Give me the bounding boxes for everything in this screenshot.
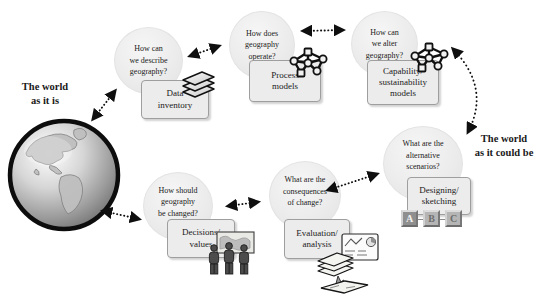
question-text: What are the alternative scenarios? [403, 138, 444, 173]
node-network-icon [286, 45, 331, 85]
map-layers-icon [180, 67, 217, 109]
activity-label: Designing/ sketching [419, 185, 459, 208]
world-as-it-is-label: The world as it is [8, 80, 82, 107]
question-text: How can we alter geography? [366, 27, 403, 62]
node-network-icon [407, 40, 452, 80]
question-text: What are the consequences of change? [283, 174, 327, 209]
question-text: How should geography be changed? [158, 185, 198, 220]
map-analysis-icon [312, 233, 380, 301]
scenario-option-b: B [423, 210, 440, 227]
scenario-option-a: A [401, 210, 418, 227]
question-text: How does geography operate? [245, 28, 279, 63]
geography-design-cycle-diagram: The world as it is The world as it could… [0, 0, 549, 305]
question-text: How can we describe geography? [130, 43, 168, 78]
earth-globe-icon [6, 117, 122, 237]
scenario-option-c: C [445, 210, 462, 227]
people-at-map-icon [207, 231, 256, 288]
world-as-it-could-be-label: The world as it could be [461, 132, 547, 159]
